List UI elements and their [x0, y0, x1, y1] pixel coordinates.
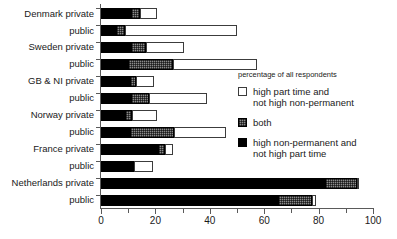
category-label: Norway private: [31, 110, 94, 120]
x-axis-tick-label: 0: [86, 215, 116, 226]
bar-row[interactable]: [101, 127, 226, 138]
bar-segment-black[interactable]: [101, 8, 131, 19]
x-axis-tick-label: 80: [304, 215, 334, 226]
bar-segment-white[interactable]: [146, 42, 184, 53]
bar-row[interactable]: [101, 25, 237, 36]
category-label: public: [69, 127, 94, 137]
legend-label: both: [253, 117, 272, 128]
x-axis-minor-tick: [237, 209, 238, 213]
bar-segment-both[interactable]: [130, 127, 175, 138]
bar-segment-black[interactable]: [101, 110, 125, 121]
bar-segment-black[interactable]: [101, 195, 278, 206]
legend-item-both[interactable]: both: [238, 117, 396, 128]
bar-segment-black[interactable]: [101, 178, 325, 189]
x-axis-tick: [264, 209, 265, 214]
x-axis-minor-tick: [291, 209, 292, 213]
bar-segment-black[interactable]: [101, 42, 131, 53]
x-axis-tick-label: 20: [140, 215, 170, 226]
bar-segment-white[interactable]: [136, 76, 154, 87]
x-axis-tick: [155, 209, 156, 214]
category-label: Sweden private: [29, 42, 94, 52]
bar-row[interactable]: [101, 76, 154, 87]
x-axis-tick: [319, 209, 320, 214]
category-label: public: [69, 59, 94, 69]
category-label: Denmark private: [24, 9, 94, 19]
category-label: public: [69, 93, 94, 103]
bar-segment-black[interactable]: [101, 161, 134, 172]
bar-segment-white[interactable]: [125, 25, 237, 36]
bar-segment-white[interactable]: [149, 93, 207, 104]
x-axis-tick: [373, 209, 374, 214]
x-axis-minor-tick: [346, 209, 347, 213]
bar-row[interactable]: [101, 93, 207, 104]
bar-segment-both[interactable]: [125, 110, 132, 121]
bar-segment-both[interactable]: [131, 93, 149, 104]
legend-swatch-both-icon: [238, 118, 247, 127]
legend-title: percentage of all respondents: [238, 70, 396, 79]
bar-segment-white[interactable]: [173, 59, 257, 70]
bar-row[interactable]: [101, 110, 157, 121]
bar-segment-both[interactable]: [116, 25, 126, 36]
x-axis-minor-tick: [128, 209, 129, 213]
bar-segment-white[interactable]: [165, 144, 173, 155]
x-axis-tick-label: 40: [195, 215, 225, 226]
x-axis-minor-tick: [183, 209, 184, 213]
stacked-bar-chart: Denmark private public Sweden private pu…: [0, 0, 397, 239]
bar-segment-black[interactable]: [101, 127, 130, 138]
category-label: public: [69, 195, 94, 205]
bar-segment-black[interactable]: [101, 76, 130, 87]
bar-segment-white[interactable]: [134, 161, 153, 172]
bar-segment-both[interactable]: [131, 42, 146, 53]
category-label: France private: [33, 144, 94, 154]
bar-row[interactable]: [101, 195, 316, 206]
category-label: GB & NI private: [28, 76, 94, 86]
legend-label: high non-permanent and not high part tim…: [253, 137, 357, 159]
legend-swatch-white-icon: [238, 87, 247, 96]
legend-label: high part time and not high non-permanen…: [253, 86, 354, 108]
bar-row[interactable]: [101, 42, 184, 53]
bar-row[interactable]: [101, 178, 359, 189]
legend-swatch-black-icon: [238, 138, 247, 147]
bar-segment-black[interactable]: [101, 59, 128, 70]
x-axis-tick: [101, 209, 102, 214]
category-label: Netherlands private: [12, 178, 94, 188]
bar-segment-both[interactable]: [278, 195, 312, 206]
legend-item-high-part-time[interactable]: high part time and not high non-permanen…: [238, 86, 396, 108]
x-axis-tick-label: 100: [358, 215, 388, 226]
legend: percentage of all respondents high part …: [238, 70, 396, 168]
category-label: public: [69, 161, 94, 171]
bar-segment-black[interactable]: [101, 144, 158, 155]
bar-segment-black[interactable]: [101, 93, 131, 104]
bar-segment-white[interactable]: [174, 127, 226, 138]
x-axis-tick: [210, 209, 211, 214]
bar-row[interactable]: [101, 59, 257, 70]
x-axis-tick-label: 60: [249, 215, 279, 226]
bar-segment-both[interactable]: [325, 178, 356, 189]
legend-item-high-non-permanent[interactable]: high non-permanent and not high part tim…: [238, 137, 396, 159]
bar-segment-both[interactable]: [128, 59, 173, 70]
bar-segment-both[interactable]: [130, 76, 137, 87]
bar-segment-white[interactable]: [140, 8, 156, 19]
bar-segment-white[interactable]: [132, 110, 156, 121]
bar-segment-white[interactable]: [312, 195, 316, 206]
bar-row[interactable]: [101, 161, 153, 172]
bar-segment-both[interactable]: [131, 8, 141, 19]
bar-row[interactable]: [101, 144, 173, 155]
category-label: public: [69, 26, 94, 36]
bar-row[interactable]: [101, 8, 157, 19]
bar-segment-black[interactable]: [101, 25, 116, 36]
bar-segment-both[interactable]: [158, 144, 165, 155]
bar-segment-white[interactable]: [357, 178, 360, 189]
